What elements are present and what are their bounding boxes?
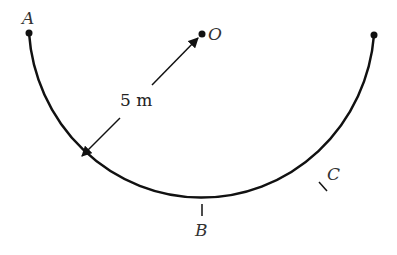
center-o-dot (199, 31, 206, 38)
label-a: A (20, 8, 34, 28)
label-b: B (194, 220, 208, 240)
radius-label: 5 m (120, 90, 152, 110)
radius-arrow-lower (82, 118, 120, 156)
semicircle-arc (29, 33, 374, 198)
label-c: C (327, 164, 340, 184)
tick-c (319, 182, 327, 191)
endpoint-right-dot (371, 32, 378, 39)
semicircular-track-diagram: A O B C 5 m (0, 0, 397, 255)
label-o: O (208, 24, 222, 44)
radius-arrow-upper (152, 38, 198, 85)
endpoint-a-dot (26, 30, 33, 37)
